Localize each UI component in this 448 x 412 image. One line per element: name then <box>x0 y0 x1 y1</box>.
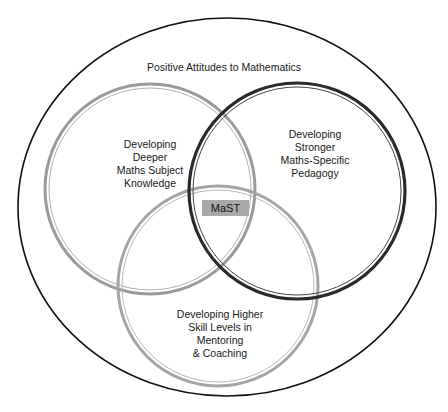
set-label-subject-knowledge: Developing Deeper Maths Subject Knowledg… <box>90 138 210 190</box>
set-label-pedagogy: Developing Stronger Maths-Specific Pedag… <box>260 128 370 180</box>
center-label-mast: MaST <box>202 200 249 216</box>
set-label-mentoring: Developing Higher Skill Levels in Mentor… <box>160 308 280 360</box>
ring-pedagogy <box>189 83 405 299</box>
outer-label: Positive Attitudes to Mathematics <box>0 61 448 73</box>
